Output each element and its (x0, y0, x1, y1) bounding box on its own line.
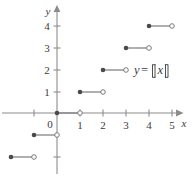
open-endpoints (32, 24, 175, 160)
y-axis-arrow-icon (54, 5, 61, 12)
equation-x: x (157, 63, 164, 77)
y-axis-label: y (45, 5, 51, 17)
open-point-0 (78, 111, 83, 116)
closed-point-neg2 (9, 155, 14, 160)
graph-svg: 0 1 2 3 4 5 1 2 3 4 x y (0, 0, 195, 178)
axes-group (2, 5, 184, 174)
equation-y: y (132, 63, 140, 77)
x-axis-label: x (181, 117, 187, 129)
closed-endpoints (9, 24, 152, 160)
closed-point-3 (124, 46, 129, 51)
closed-point-1 (78, 90, 83, 95)
x-tick-label-2: 2 (100, 119, 106, 131)
open-point-3 (147, 46, 152, 51)
floor-function-graph: 0 1 2 3 4 5 1 2 3 4 x y (0, 0, 195, 178)
y-tick-label-1: 1 (44, 86, 50, 98)
x-tick-label-5: 5 (169, 119, 175, 131)
equation-annotation: y = x (132, 63, 168, 78)
bracket-open-icon (153, 65, 156, 78)
x-tick-label-3: 3 (123, 119, 129, 131)
bracket-close-icon (165, 65, 168, 78)
y-tick-label-3: 3 (44, 42, 50, 54)
closed-point-4 (147, 24, 152, 29)
open-point-neg2 (32, 155, 37, 160)
y-tick-label-4: 4 (44, 20, 50, 32)
open-point-1 (101, 90, 106, 95)
origin-tick-label: 0 (47, 118, 53, 130)
open-point-4 (170, 24, 175, 29)
equation-equals: = (141, 63, 148, 77)
open-point-2 (124, 68, 129, 73)
x-tick-label-4: 4 (146, 119, 152, 131)
closed-point-neg1 (32, 133, 37, 138)
x-tick-label-1: 1 (77, 119, 83, 131)
closed-point-0 (55, 111, 60, 116)
x-axis-arrow-icon (176, 110, 184, 117)
y-tick-label-2: 2 (44, 64, 50, 76)
closed-point-2 (101, 68, 106, 73)
open-point-neg1 (55, 133, 60, 138)
